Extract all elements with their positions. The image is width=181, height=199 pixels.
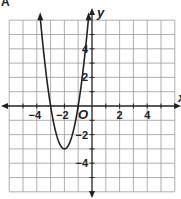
y-axis-label: y — [96, 5, 105, 20]
coordinate-plane: −4−22442−2−4Oyx — [0, 0, 181, 199]
y-axis-down-arrow-icon — [89, 191, 95, 198]
y-tick-label: −2 — [75, 129, 88, 141]
x-tick-label: −2 — [56, 109, 69, 121]
curve-arrow-icons — [37, 12, 91, 20]
origin-label: O — [78, 107, 88, 122]
x-tick-label: −4 — [29, 109, 42, 121]
x-axis-label: x — [177, 90, 181, 105]
x-tick-label: 4 — [144, 109, 151, 121]
axis-labels: −4−22442−2−4Oyx — [29, 5, 181, 169]
x-tick-label: 2 — [117, 109, 123, 121]
x-axis-left-arrow-icon — [1, 103, 8, 109]
y-axis-up-arrow-icon — [89, 8, 95, 15]
y-tick-label: −4 — [75, 157, 88, 169]
axes — [1, 8, 181, 198]
curve-left-arrow-icon — [37, 12, 43, 20]
